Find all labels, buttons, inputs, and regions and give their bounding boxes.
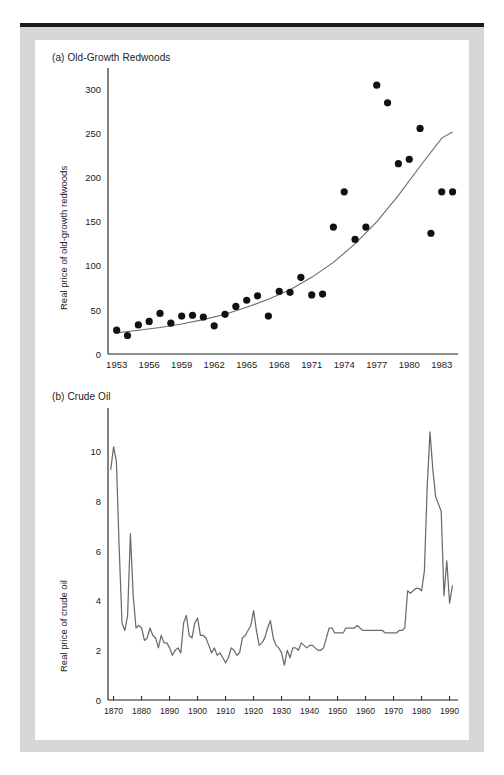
data-point: [167, 320, 174, 327]
y-tick-label-a: 50: [90, 305, 101, 316]
x-tick-label-a: 1971: [301, 359, 322, 370]
data-point: [211, 322, 218, 329]
x-tick-label-b: 1920: [244, 706, 263, 716]
data-point: [200, 313, 207, 320]
chart-old-growth-redwoods: 0501001502002503001953195619591962196519…: [62, 62, 466, 382]
x-tick-label-b: 1880: [132, 706, 151, 716]
data-point: [113, 327, 120, 334]
x-tick-label-b: 1990: [440, 706, 459, 716]
x-tick-label-b: 1890: [160, 706, 179, 716]
x-tick-label-a: 1953: [106, 359, 127, 370]
x-tick-label-a: 1980: [399, 359, 420, 370]
x-tick-label-b: 1970: [384, 706, 403, 716]
data-point: [243, 297, 250, 304]
data-point: [286, 289, 293, 296]
data-point: [178, 313, 185, 320]
x-tick-label-b: 1900: [188, 706, 207, 716]
data-point: [297, 274, 304, 281]
data-point: [395, 160, 402, 167]
x-tick-label-b: 1870: [104, 706, 123, 716]
x-tick-label-b: 1910: [216, 706, 235, 716]
data-point: [351, 236, 358, 243]
x-tick-label-b: 1930: [272, 706, 291, 716]
data-point: [416, 125, 423, 132]
data-point: [124, 332, 131, 339]
y-tick-label-a: 300: [85, 84, 101, 95]
document-page: (a) Old-Growth Redwoods Real price of ol…: [0, 0, 504, 775]
data-point: [341, 188, 348, 195]
y-tick-label-b: 10: [90, 446, 101, 457]
x-tick-label-a: 1977: [366, 359, 387, 370]
data-point: [373, 82, 380, 89]
x-tick-label-a: 1968: [269, 359, 290, 370]
y-tick-label-a: 100: [85, 260, 101, 271]
data-point: [221, 311, 228, 318]
y-tick-label-b: 4: [96, 595, 101, 606]
y-tick-label-b: 8: [96, 496, 101, 507]
data-point: [319, 290, 326, 297]
x-tick-label-b: 1960: [356, 706, 375, 716]
x-tick-label-b: 1980: [412, 706, 431, 716]
y-tick-label-b: 6: [96, 546, 101, 557]
data-point: [308, 291, 315, 298]
y-tick-label-b: 0: [96, 695, 101, 706]
data-point: [232, 303, 239, 310]
data-point: [406, 156, 413, 163]
y-tick-label-b: 2: [96, 645, 101, 656]
x-tick-label-b: 1940: [300, 706, 319, 716]
x-tick-label-a: 1959: [171, 359, 192, 370]
data-point: [254, 292, 261, 299]
y-tick-label-a: 0: [96, 349, 101, 360]
trend-fit-curve: [117, 132, 453, 333]
data-point: [146, 318, 153, 325]
x-tick-label-a: 1965: [236, 359, 257, 370]
y-tick-label-a: 150: [85, 216, 101, 227]
data-point: [189, 312, 196, 319]
crude-oil-series-line: [111, 432, 453, 665]
data-point: [427, 230, 434, 237]
data-point: [276, 288, 283, 295]
x-tick-label-a: 1962: [204, 359, 225, 370]
x-tick-label-a: 1983: [431, 359, 452, 370]
y-tick-label-a: 250: [85, 128, 101, 139]
data-point: [362, 224, 369, 231]
chart-crude-oil: 0246810187018801890190019101920193019401…: [62, 400, 466, 730]
data-point: [156, 310, 163, 317]
x-tick-label-a: 1974: [334, 359, 355, 370]
data-point: [265, 313, 272, 320]
data-point: [135, 321, 142, 328]
data-point: [330, 224, 337, 231]
data-point: [384, 99, 391, 106]
data-point: [449, 188, 456, 195]
x-tick-label-a: 1956: [139, 359, 160, 370]
top-rule: [20, 23, 484, 27]
y-tick-label-a: 200: [85, 172, 101, 183]
x-tick-label-b: 1950: [328, 706, 347, 716]
data-point: [438, 188, 445, 195]
